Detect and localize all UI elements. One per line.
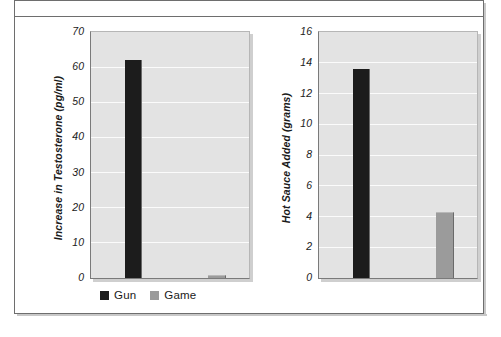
gridline	[319, 62, 477, 63]
legend-label: Gun	[114, 289, 136, 301]
y-axis-ticks-testosterone: 010203040506070	[59, 31, 87, 279]
y-tick-label: 60	[72, 60, 84, 72]
y-tick-label: 0	[78, 271, 84, 283]
y-tick-label: 14	[300, 56, 312, 68]
gridline	[319, 124, 477, 125]
bar-game	[436, 212, 454, 278]
legend-swatch-gun	[100, 291, 109, 300]
figure-header-strip	[15, 1, 483, 17]
y-tick-label: 10	[72, 236, 84, 248]
gridline	[319, 155, 477, 156]
y-tick-label: 70	[72, 25, 84, 37]
figure-shadow-right	[484, 3, 486, 316]
legend-item-gun[interactable]: Gun	[100, 289, 136, 301]
gridline	[91, 137, 249, 138]
legend-item-game[interactable]: Game	[150, 289, 196, 301]
gridline	[319, 185, 477, 186]
y-tick-label: 12	[300, 87, 312, 99]
y-tick-label: 2	[306, 240, 312, 252]
figure-shadow-bottom	[17, 314, 487, 316]
y-tick-label: 30	[72, 166, 84, 178]
chart-legend: GunGame	[100, 289, 196, 301]
gridline	[319, 93, 477, 94]
plot-area-hot-sauce	[318, 31, 478, 279]
bar-gun	[125, 60, 142, 278]
y-tick-label: 20	[72, 201, 84, 213]
gridline	[91, 172, 249, 173]
y-axis-ticks-hot-sauce: 0246810121416	[287, 31, 315, 279]
bar-game	[208, 275, 226, 278]
plot-area-testosterone	[90, 31, 250, 279]
gridline	[91, 102, 249, 103]
y-tick-label: 4	[306, 210, 312, 222]
y-tick-label: 8	[306, 148, 312, 160]
y-tick-label: 6	[306, 179, 312, 191]
gridline	[91, 207, 249, 208]
gridline	[91, 67, 249, 68]
legend-swatch-game	[150, 291, 159, 300]
y-tick-label: 50	[72, 95, 84, 107]
plot-wrap-hot-sauce	[318, 31, 478, 279]
bar-gun	[353, 69, 370, 278]
y-tick-label: 0	[306, 271, 312, 283]
legend-label: Game	[164, 289, 196, 301]
figure-frame: Increase in Testosterone (pg/ml) 0102030…	[14, 0, 484, 314]
y-tick-label: 40	[72, 130, 84, 142]
gridline	[91, 242, 249, 243]
y-tick-label: 16	[300, 25, 312, 37]
y-tick-label: 10	[300, 117, 312, 129]
plot-wrap-testosterone	[90, 31, 250, 279]
